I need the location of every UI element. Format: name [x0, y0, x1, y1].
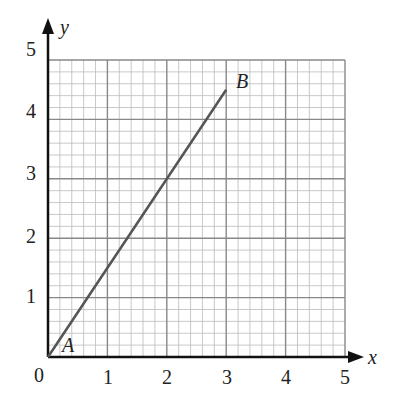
x-axis-arrow-icon: [348, 351, 364, 363]
x-tick-2: 2: [162, 366, 172, 388]
y-tick-1: 1: [26, 285, 36, 307]
segment-ab: [48, 90, 226, 357]
y-axis-arrow-icon: [42, 18, 54, 34]
point-a-label: A: [60, 334, 75, 356]
x-tick-5: 5: [340, 366, 350, 388]
y-tick-5: 5: [26, 38, 36, 60]
origin-label: 0: [34, 364, 44, 386]
point-b-label: B: [236, 70, 248, 92]
y-tick-4: 4: [26, 100, 36, 122]
y-axis-label: y: [58, 16, 69, 39]
x-tick-4: 4: [281, 366, 291, 388]
x-tick-1: 1: [103, 366, 113, 388]
graph: y x 0 A B 1 2 3 4 5 1 2 3 4 5: [0, 0, 394, 398]
major-grid: [48, 60, 345, 357]
y-tick-2: 2: [26, 225, 36, 247]
x-axis-label: x: [367, 346, 377, 368]
x-tick-3: 3: [222, 366, 232, 388]
minor-grid: [48, 60, 345, 357]
y-tick-3: 3: [26, 162, 36, 184]
